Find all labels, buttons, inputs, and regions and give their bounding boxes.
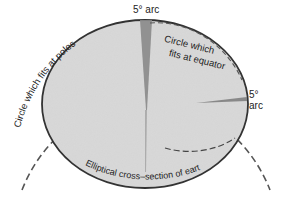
right-arc-word-label: arc [249, 100, 263, 111]
top-arc-label: 5° arc [133, 4, 159, 15]
earth-ellipse-diagram: 5° arc 5° arc Circle which fits at poles… [0, 0, 293, 198]
diagram-svg: 5° arc 5° arc Circle which fits at poles… [0, 0, 293, 198]
right-arc-deg-label: 5° [249, 89, 259, 100]
